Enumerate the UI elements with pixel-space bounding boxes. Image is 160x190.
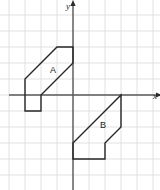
coordinate-plane-figure: A B y x (0, 0, 160, 190)
y-axis-label: y (65, 1, 70, 11)
shape-label-b: B (100, 120, 106, 130)
shape-label-a: A (50, 65, 56, 75)
coordinate-plane-svg: A B y x (0, 0, 160, 190)
x-axis-label: x (152, 91, 157, 101)
